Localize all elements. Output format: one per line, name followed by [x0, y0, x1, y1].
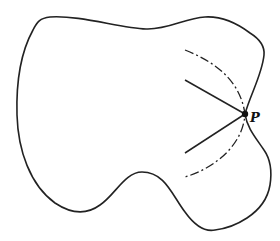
- point-p-marker: [242, 111, 248, 117]
- upper-ray: [185, 80, 245, 114]
- dash-dot-arc: [185, 50, 245, 177]
- point-p-label: P: [249, 110, 261, 125]
- region-diagram: P: [0, 0, 280, 241]
- lower-ray: [185, 114, 245, 153]
- region-boundary: [17, 17, 271, 231]
